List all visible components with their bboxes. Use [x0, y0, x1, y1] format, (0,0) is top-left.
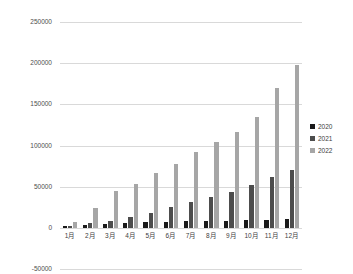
x-axis-tick-label: 1月 [60, 230, 80, 240]
bar-2021-11月 [270, 177, 274, 228]
bar-chart: 250000200000150000100000500000-50000 1月2… [0, 0, 353, 274]
bar-2021-12月 [290, 170, 294, 228]
legend-swatch-icon [310, 124, 315, 129]
bar-group [204, 22, 219, 228]
bar-2020-6月 [164, 222, 168, 228]
x-axis-tick-label: 3月 [100, 230, 120, 240]
y-axis-tick-label: -50000 [0, 265, 52, 272]
bar-2022-12月 [295, 65, 299, 228]
bar-2020-4月 [123, 223, 127, 228]
bar-2020-7月 [184, 221, 188, 228]
bar-2022-10月 [255, 117, 259, 228]
bar-2021-8月 [209, 197, 213, 228]
gridline [60, 228, 302, 229]
bar-group [123, 22, 138, 228]
bar-2022-1月 [73, 222, 77, 228]
bar-2021-1月 [68, 226, 72, 228]
bar-2020-12月 [285, 219, 289, 228]
legend-swatch-icon [310, 136, 315, 141]
bar-group [264, 22, 279, 228]
y-axis-tick-label: 0 [0, 224, 52, 231]
y-axis-tick-label: 100000 [0, 142, 52, 149]
bar-2022-8月 [214, 142, 218, 228]
bar-2022-9月 [235, 132, 239, 228]
gridline [60, 269, 302, 270]
x-axis-tick-label: 11月 [262, 230, 282, 240]
x-axis-tick-label: 12月 [282, 230, 302, 240]
bar-group [63, 22, 78, 228]
y-axis-labels: 250000200000150000100000500000-50000 [0, 0, 58, 274]
x-axis-tick-label: 10月 [242, 230, 262, 240]
x-axis-labels: 1月2月3月4月5月6月7月8月9月10月11月12月 [60, 230, 302, 244]
bars-layer [60, 22, 302, 228]
bar-2021-7月 [189, 202, 193, 228]
bar-2020-8月 [204, 221, 208, 228]
bar-2021-3月 [108, 221, 112, 228]
bar-2020-3月 [103, 224, 107, 228]
x-axis-tick-label: 4月 [121, 230, 141, 240]
y-axis-tick-label: 250000 [0, 18, 52, 25]
x-axis-tick-label: 2月 [80, 230, 100, 240]
bar-2020-1月 [63, 226, 67, 228]
legend-item-2022[interactable]: 2022 [310, 144, 353, 156]
bar-group [164, 22, 179, 228]
x-axis-tick-label: 5月 [141, 230, 161, 240]
bar-group [143, 22, 158, 228]
bar-group [244, 22, 259, 228]
bar-2021-5月 [149, 213, 153, 228]
bar-group [83, 22, 98, 228]
bar-group [285, 22, 300, 228]
bar-2020-10月 [244, 220, 248, 228]
bar-2022-6月 [174, 164, 178, 228]
legend-item-2020[interactable]: 2020 [310, 120, 353, 132]
bar-group [224, 22, 239, 228]
bar-2022-5月 [154, 173, 158, 228]
y-axis-tick-label: 150000 [0, 100, 52, 107]
legend-item-2021[interactable]: 2021 [310, 132, 353, 144]
bar-2021-4月 [128, 217, 132, 228]
x-axis-tick-label: 8月 [201, 230, 221, 240]
bar-2021-2月 [88, 223, 92, 228]
x-axis-tick-label: 7月 [181, 230, 201, 240]
bar-2020-11月 [264, 220, 268, 228]
bar-2021-6月 [169, 207, 173, 228]
bar-group [184, 22, 199, 228]
legend-label: 2022 [318, 147, 332, 154]
legend-swatch-icon [310, 148, 315, 153]
chart-legend: 202020212022 [310, 120, 353, 156]
legend-label: 2020 [318, 123, 332, 130]
bar-2022-11月 [275, 88, 279, 228]
x-axis-tick-label: 6月 [161, 230, 181, 240]
legend-label: 2021 [318, 135, 332, 142]
bar-2020-5月 [143, 222, 147, 228]
y-axis-tick-label: 200000 [0, 59, 52, 66]
bar-2022-7月 [194, 152, 198, 228]
bar-group [103, 22, 118, 228]
bar-2022-3月 [114, 191, 118, 228]
y-axis-tick-label: 50000 [0, 183, 52, 190]
bar-2020-9月 [224, 221, 228, 228]
bar-2022-2月 [93, 208, 97, 228]
bar-2022-4月 [134, 184, 138, 228]
x-axis-tick-label: 9月 [221, 230, 241, 240]
bar-2021-9月 [229, 192, 233, 228]
bar-2020-2月 [83, 225, 87, 228]
bar-2021-10月 [249, 185, 253, 228]
